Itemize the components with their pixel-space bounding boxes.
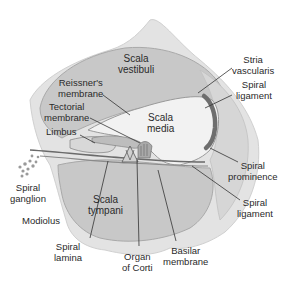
label-spiral-ligament-lower: Spiral ligament [237,198,273,219]
label-limbus: Limbus [46,127,77,138]
label-basilar-membrane: Basilar membrane [163,246,208,267]
label-spiral-ganglion: Spiral ganglion [10,183,46,204]
spiral-ganglion-cells [18,155,39,178]
label-spiral-ligament-upper: Spiral ligament [236,80,272,101]
label-stria-vascularis: Stria vascularis [232,55,274,76]
label-tectorial-membrane: Tectorial membrane [44,102,89,123]
label-scala-tympani: Scala tympani [88,195,123,216]
label-scala-media: Scala media [147,113,174,134]
cochlea-cross-section [0,0,292,282]
label-organ-of-corti: Organ of Corti [122,252,153,273]
label-spiral-prominence: Spiral prominence [228,161,278,182]
label-modiolus: Modiolus [22,216,60,227]
label-scala-vestibuli: Scala vestibuli [118,54,154,75]
label-reissners-membrane: Reissner's membrane [58,78,103,99]
label-spiral-lamina: Spiral lamina [54,242,82,263]
